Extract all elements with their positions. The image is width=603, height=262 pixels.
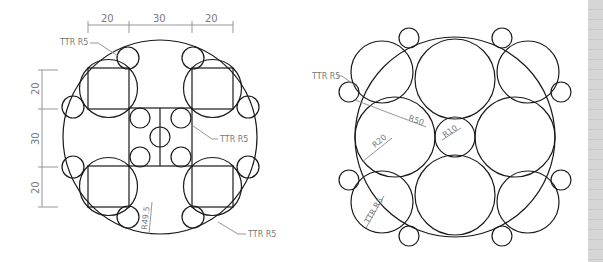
leader-ttr-top-left [90,43,118,56]
side-dim-1: 20 [30,82,41,95]
vertical-scrollbar[interactable] [588,0,603,262]
left-side-dimension: 20 30 20 [30,70,58,207]
label-ttr-lower: TTR R5 [362,196,384,226]
left-drawing: 20 30 20 20 30 20 TTR R5 TTR R5 TTR R5 R… [30,13,276,239]
leader-ttr-middle [193,126,218,139]
left-small-circle [62,156,84,178]
left-square-br [192,166,233,207]
right-small-circle [551,170,571,190]
side-dim-3: 20 [30,181,41,194]
right-small-circle [339,82,359,102]
label-r10: R10 [441,123,459,139]
left-small-circle [171,147,191,167]
side-dim-2: 30 [30,132,41,145]
right-small-circle [399,226,419,246]
right-small-circle [399,28,419,48]
left-small-circle [182,47,204,69]
right-large-circle-bottom [415,155,495,235]
left-top-dimension: 20 30 20 [88,13,233,33]
label-r50: R50 [407,113,425,127]
left-small-circle [237,96,259,118]
label-ttr-left: TTR R5 [311,72,340,81]
left-square-bl [88,166,129,207]
right-small-circle [339,170,359,190]
label-ttr-middle: TTR R5 [219,135,248,144]
left-small-circle [62,96,84,118]
left-small-circle [182,206,204,228]
left-small-circle [130,147,150,167]
right-small-circle [551,82,571,102]
right-large-circle-right [475,97,555,177]
right-corner-circle-tl [351,41,413,103]
right-large-circle-top [415,39,495,119]
left-small-circle [171,108,191,128]
top-dim-2: 30 [153,13,166,24]
left-small-circle [237,156,259,178]
label-ttr-top-left: TTR R5 [59,38,88,47]
right-corner-circle-tr [497,41,559,103]
left-small-circle [130,108,150,128]
top-dim-3: 20 [205,13,218,24]
right-corner-circle-br [497,171,559,233]
left-square-tl [88,68,129,109]
cad-drawing-canvas: 20 30 20 20 30 20 TTR R5 TTR R5 TTR R5 R… [0,0,603,262]
right-drawing: TTR R5 R50 R20 R10 TTR R5 [311,28,571,246]
left-small-circle [117,206,139,228]
leader-ttr-bottom-right [218,222,246,234]
top-dim-1: 20 [101,13,114,24]
right-small-circle [492,226,512,246]
label-r20: R20 [371,133,389,150]
left-small-circle [117,47,139,69]
right-large-circle-left [355,97,435,177]
right-center-circle [435,117,475,157]
label-ttr-bottom-right: TTR R5 [247,230,276,239]
right-small-circle [492,28,512,48]
left-square-tr [192,68,233,109]
